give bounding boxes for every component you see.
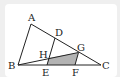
label-e: E	[42, 67, 49, 77]
label-h: H	[39, 49, 48, 60]
label-g: G	[77, 42, 85, 53]
label-c: C	[102, 60, 110, 71]
label-a: A	[27, 12, 36, 23]
geometry-figure: A B C D G H E F	[0, 0, 120, 77]
segment-ab	[18, 24, 31, 65]
label-b: B	[8, 60, 15, 71]
shaded-quadrilateral-hefg	[47, 53, 79, 66]
label-d: D	[55, 27, 63, 38]
label-f: F	[72, 67, 79, 77]
